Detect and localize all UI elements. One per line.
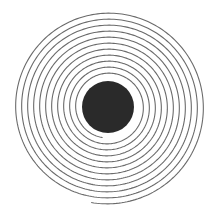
spiral-graphic xyxy=(0,0,216,215)
spiral-figure xyxy=(0,0,216,215)
center-disc xyxy=(82,81,134,133)
